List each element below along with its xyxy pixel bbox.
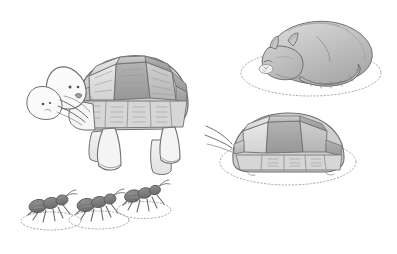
tortoise-eye-secondary-2 (49, 102, 51, 104)
tortoise-eye-primary-2 (77, 86, 80, 89)
sketch-svg (0, 0, 397, 254)
shell-scute-center (266, 121, 303, 153)
shell-scute-top-center (268, 116, 300, 122)
cat-head (262, 46, 303, 80)
tortoise-eye-secondary (42, 103, 45, 106)
illustration-canvas (0, 0, 397, 254)
tortoise-scute-center-1 (114, 62, 150, 100)
tortoise-eye-primary (69, 86, 72, 89)
tortoise-front-leg-near (98, 128, 121, 170)
tortoise-back-leg-near (160, 127, 180, 163)
